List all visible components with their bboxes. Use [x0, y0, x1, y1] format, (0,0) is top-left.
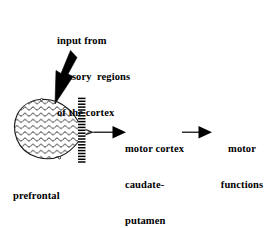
label-line: sensory regions	[57, 71, 130, 83]
label-motor-cortex-caudate-putamen: motor cortex caudate- putamen	[125, 119, 184, 228]
label-line: putamen	[125, 215, 184, 227]
label-line: motor	[215, 143, 269, 155]
label-prefrontal-cortex-filters-out-responses: prefrontal cortex filters out responses	[13, 166, 60, 228]
label-input-from-sensory-regions: input from sensory regions of the cortex	[57, 11, 130, 143]
arrow-to-motor-functions	[182, 126, 212, 138]
label-line: functions	[215, 179, 269, 191]
label-line: of the cortex	[57, 107, 130, 119]
label-line: cortex	[13, 226, 60, 228]
label-line: prefrontal	[13, 190, 60, 202]
label-line: motor cortex	[125, 143, 184, 155]
label-line: input from	[57, 35, 130, 47]
label-line: caudate-	[125, 179, 184, 191]
label-motor-functions: motor functions	[215, 119, 269, 215]
diagram-canvas: input from sensory regions of the cortex…	[0, 0, 274, 228]
